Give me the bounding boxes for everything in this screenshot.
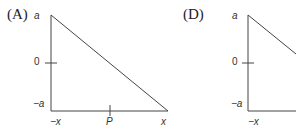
panel-d-label: (D) bbox=[183, 6, 204, 23]
panel-d-y-bottom-label: −a bbox=[231, 98, 242, 109]
panel-d-x-left-label: −x bbox=[248, 116, 259, 127]
panel-a-diagonal bbox=[51, 15, 168, 111]
panel-d-y-mid-label: 0 bbox=[232, 56, 238, 67]
panel-a-x-right-label: x bbox=[161, 116, 166, 127]
panel-a-x-left-label: −x bbox=[50, 116, 61, 127]
panel-a-y-top-label: a bbox=[34, 10, 40, 21]
panel-d-diagonal bbox=[248, 15, 296, 54]
panel-a-x-mid-label: P bbox=[106, 116, 113, 127]
panel-a-label: (A) bbox=[7, 6, 28, 23]
panel-a-y-mid-label: 0 bbox=[34, 56, 40, 67]
panel-d-y-top-label: a bbox=[232, 10, 238, 21]
panel-a-y-bottom-label: −a bbox=[33, 98, 44, 109]
